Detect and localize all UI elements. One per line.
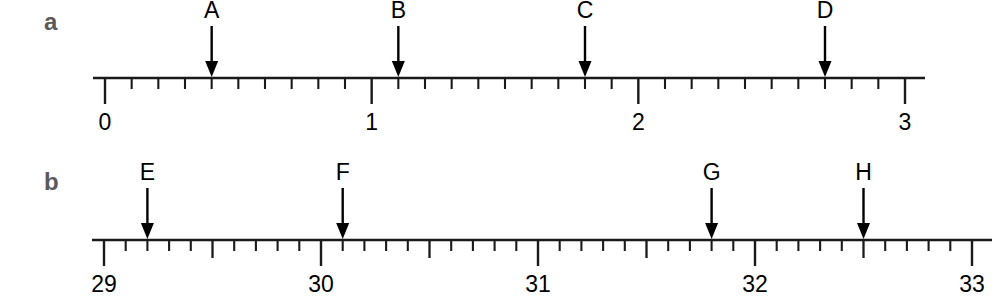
axis-tick-label-30: 30 (308, 271, 334, 297)
marker-label-C: C (577, 0, 594, 23)
marker-B: B (391, 0, 406, 77)
marker-label-B: B (391, 0, 406, 23)
marker-label-A: A (204, 0, 220, 23)
marker-label-H: H (855, 159, 872, 185)
marker-E: E (140, 159, 155, 239)
axis-tick-label-0: 0 (99, 109, 112, 135)
axis-tick-label-32: 32 (742, 271, 768, 297)
arrow-head-C (579, 61, 592, 77)
axis-tick-label-1: 1 (365, 109, 378, 135)
axis-tick-label-31: 31 (525, 271, 551, 297)
marker-H: H (855, 159, 872, 239)
panel-a: a 0123ABCD (0, 0, 998, 152)
arrow-head-H (857, 223, 870, 239)
marker-label-G: G (703, 159, 721, 185)
marker-D: D (817, 0, 834, 77)
axis-tick-label-3: 3 (899, 109, 912, 135)
marker-label-E: E (140, 159, 155, 185)
marker-label-D: D (817, 0, 834, 23)
axis-tick-label-33: 33 (959, 271, 985, 297)
marker-G: G (703, 159, 721, 239)
axis-tick-label-2: 2 (632, 109, 645, 135)
marker-C: C (577, 0, 594, 77)
marker-label-F: F (336, 159, 350, 185)
axis-tick-label-29: 29 (91, 271, 117, 297)
marker-F: F (336, 159, 350, 239)
marker-A: A (204, 0, 220, 77)
arrow-head-A (205, 61, 218, 77)
number-line-a: 0123ABCD (0, 0, 998, 152)
arrow-head-F (336, 223, 349, 239)
number-line-b: 2930313233EFGH (0, 152, 998, 304)
panel-b: b 2930313233EFGH (0, 152, 998, 304)
number-line-figure: a 0123ABCD b 2930313233EFGH (0, 0, 998, 304)
arrow-head-G (705, 223, 718, 239)
arrow-head-B (392, 61, 405, 77)
arrow-head-D (819, 61, 832, 77)
arrow-head-E (141, 223, 154, 239)
